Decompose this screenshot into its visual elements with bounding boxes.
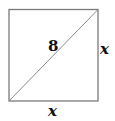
- bottom-side-label: x: [48, 104, 57, 119]
- right-side-label: x: [100, 42, 109, 57]
- diagonal-label: 8: [48, 39, 58, 54]
- diagonal-line: [9, 10, 98, 102]
- square-diagram: [0, 0, 115, 121]
